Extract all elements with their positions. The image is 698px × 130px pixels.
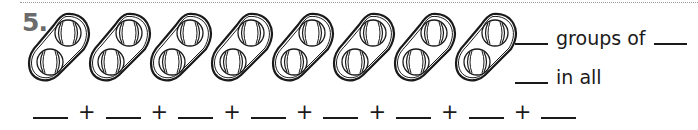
baseball-icon: [55, 20, 81, 46]
plus-sign: +: [441, 100, 459, 124]
groups-of-line: groups of: [513, 27, 689, 49]
plus-sign: +: [296, 100, 314, 124]
groups-of-label: groups of: [556, 27, 645, 49]
addition-sentence: +++++++: [33, 100, 580, 124]
oval-group-icon: [26, 11, 92, 83]
oval-group-icon: [331, 11, 397, 83]
addend-blank[interactable]: [323, 117, 358, 119]
baseball-icon: [177, 20, 203, 46]
in-all-line: in all: [513, 66, 602, 88]
addend-blank[interactable]: [541, 117, 576, 119]
plus-sign: +: [514, 100, 532, 124]
plus-sign: +: [223, 100, 241, 124]
groups-count-blank[interactable]: [515, 43, 548, 45]
in-all-label: in all: [556, 66, 602, 88]
plus-sign: +: [368, 100, 386, 124]
baseball-icon: [421, 20, 447, 46]
baseball-icon: [159, 49, 185, 75]
addend-blank[interactable]: [251, 117, 286, 119]
oval-group-icon: [209, 11, 275, 83]
plus-sign: +: [151, 100, 169, 124]
baseball-icon: [299, 20, 325, 46]
baseball-icon: [360, 20, 386, 46]
oval-group-icon: [392, 11, 458, 83]
baseball-icon: [464, 49, 490, 75]
baseball-icon: [482, 20, 508, 46]
oval-group-icon: [453, 11, 519, 83]
baseball-icon: [238, 20, 264, 46]
baseball-icon: [37, 49, 63, 75]
baseball-icon: [403, 49, 429, 75]
baseball-icon: [116, 20, 142, 46]
oval-group-icon: [148, 11, 214, 83]
addend-blank[interactable]: [178, 117, 213, 119]
plus-sign: +: [78, 100, 96, 124]
addend-blank[interactable]: [33, 117, 68, 119]
addend-blank[interactable]: [396, 117, 431, 119]
total-blank[interactable]: [515, 82, 548, 84]
oval-group-icon: [270, 11, 336, 83]
addend-blank[interactable]: [469, 117, 504, 119]
baseball-icon: [220, 49, 246, 75]
baseball-icon: [342, 49, 368, 75]
group-size-blank[interactable]: [654, 43, 687, 45]
addend-blank[interactable]: [106, 117, 141, 119]
dotted-divider: [20, 2, 698, 3]
baseball-icon: [281, 49, 307, 75]
baseball-icon: [98, 49, 124, 75]
oval-group-icon: [87, 11, 153, 83]
